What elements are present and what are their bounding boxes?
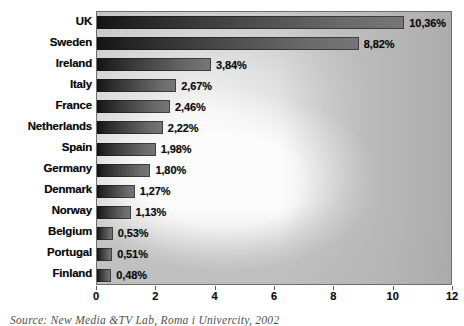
bar-row: 1,27% — [97, 183, 451, 199]
bar — [97, 227, 113, 240]
x-tick-label: 8 — [330, 290, 336, 302]
bar-value-label: 0,53% — [118, 227, 149, 239]
bar-row: 10,36% — [97, 15, 451, 31]
category-label-norway: Norway — [2, 204, 92, 216]
bar — [97, 121, 163, 134]
category-label-finland: Finland — [2, 267, 92, 279]
category-label-ireland: Ireland — [2, 57, 92, 69]
bar — [97, 100, 170, 113]
plot-area: 10,36%8,82%3,84%2,67%2,46%2,22%1,98%1,80… — [96, 11, 452, 285]
bar — [97, 37, 359, 50]
bar — [97, 206, 131, 219]
category-label-belgium: Belgium — [2, 225, 92, 237]
category-label-sweden: Sweden — [2, 36, 92, 48]
bar-row: 2,67% — [97, 78, 451, 94]
x-tick-label: 10 — [387, 290, 399, 302]
bar — [97, 79, 176, 92]
category-label-italy: Italy — [2, 78, 92, 90]
bar — [97, 16, 404, 29]
bar-value-label: 0,48% — [116, 269, 147, 281]
bar-value-label: 10,36% — [409, 17, 446, 29]
bar-row: 2,22% — [97, 120, 451, 136]
category-label-spain: Spain — [2, 141, 92, 153]
bar-value-label: 2,46% — [175, 101, 206, 113]
bar-row: 0,53% — [97, 225, 451, 241]
bar-row: 1,80% — [97, 162, 451, 178]
bar — [97, 269, 111, 282]
category-label-portugal: Portugal — [2, 246, 92, 258]
category-label-uk: UK — [2, 15, 92, 27]
bar-row: 1,98% — [97, 141, 451, 157]
source-caption: Source: New Media &TV Lab, Roma i Univer… — [10, 314, 464, 326]
bar-row: 0,51% — [97, 246, 451, 262]
category-label-netherlands: Netherlands — [2, 120, 92, 132]
bar — [97, 58, 211, 71]
bar — [97, 143, 156, 156]
x-tick-label: 0 — [93, 290, 99, 302]
bar-value-label: 0,51% — [117, 248, 148, 260]
bar-chart-figure: UKSwedenIrelandItalyFranceNetherlandsSpa… — [0, 0, 464, 326]
category-label-denmark: Denmark — [2, 183, 92, 195]
bar — [97, 185, 135, 198]
bar-value-label: 1,98% — [161, 143, 192, 155]
bar-value-label: 1,13% — [136, 206, 167, 218]
x-axis: 024681012 — [96, 286, 452, 306]
y-axis-labels: UKSwedenIrelandItalyFranceNetherlandsSpa… — [0, 11, 92, 285]
bar-value-label: 3,84% — [216, 59, 247, 71]
x-tick-label: 6 — [271, 290, 277, 302]
bar-value-label: 2,67% — [181, 80, 212, 92]
x-tick-label: 12 — [446, 290, 458, 302]
x-tick-label: 4 — [212, 290, 218, 302]
bar-value-label: 1,80% — [155, 164, 186, 176]
bar-row: 0,48% — [97, 267, 451, 283]
bar-row: 3,84% — [97, 57, 451, 73]
bar — [97, 248, 112, 261]
x-tick-label: 2 — [152, 290, 158, 302]
category-label-germany: Germany — [2, 162, 92, 174]
bar — [97, 164, 150, 177]
bar-row: 1,13% — [97, 204, 451, 220]
bar-value-label: 1,27% — [140, 185, 171, 197]
bar-value-label: 2,22% — [168, 122, 199, 134]
category-label-france: France — [2, 99, 92, 111]
bar-row: 8,82% — [97, 36, 451, 52]
bar-value-label: 8,82% — [364, 38, 395, 50]
bar-row: 2,46% — [97, 99, 451, 115]
